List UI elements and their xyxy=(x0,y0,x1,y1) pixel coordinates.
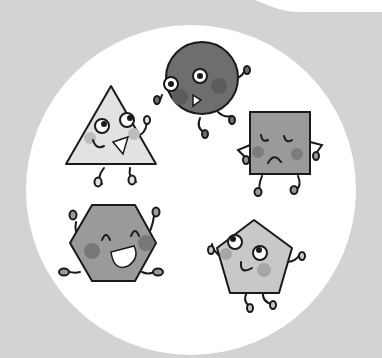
illustration: Circle character Triangle character Squa… xyxy=(0,0,382,358)
shape-characters-artwork xyxy=(0,0,382,358)
